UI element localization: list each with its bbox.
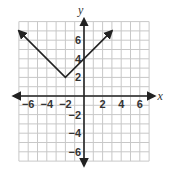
x-tick-label: 4 — [118, 98, 125, 110]
y-tick-label: −2 — [68, 109, 81, 121]
y-tick-label: −6 — [68, 146, 81, 158]
x-axis-label: x — [156, 89, 163, 103]
x-tick-label: 2 — [100, 98, 106, 110]
y-tick-label: 6 — [75, 34, 81, 46]
x-tick-label: −4 — [41, 98, 54, 110]
y-axis-label: y — [77, 3, 84, 17]
x-tick-label: 6 — [137, 98, 143, 110]
x-tick-label: −6 — [22, 98, 35, 110]
y-tick-label: 2 — [75, 71, 81, 83]
y-tick-label: −4 — [68, 127, 81, 139]
axes — [13, 19, 154, 166]
coordinate-plane: −6−4−2246642−2−4−6 x y — [0, 0, 172, 179]
